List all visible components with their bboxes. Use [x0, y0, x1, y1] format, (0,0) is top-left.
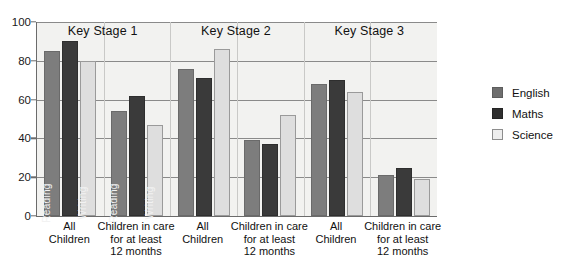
legend: English Maths Science: [492, 82, 572, 145]
bar-inner-label: Writing: [144, 186, 155, 219]
x-axis-category-label: Children in care for at least 12 months: [364, 220, 441, 258]
x-axis-category-label: Children in care for at least 12 months: [231, 220, 308, 258]
x-axis-category-label: Children in care for at least 12 months: [97, 220, 174, 258]
group-separator: [170, 22, 171, 216]
legend-label-science: Science: [512, 129, 553, 141]
stage-title-2: Key Stage 2: [201, 24, 271, 38]
group-separator: [370, 22, 371, 216]
bar-english-group-2[interactable]: [178, 69, 194, 216]
y-axis-tick-label: 100: [0, 16, 31, 28]
stage-title-1: Key Stage 1: [68, 24, 138, 38]
x-axis-category-label: All Children: [49, 220, 90, 245]
bar-inner-label: Reading: [41, 183, 52, 222]
bar-english-group-5[interactable]: [378, 175, 394, 216]
bar-science-group-2[interactable]: [214, 49, 230, 216]
legend-swatch-english-icon: [492, 87, 503, 98]
x-axis-category-label: All Children: [182, 220, 223, 245]
bar-inner-label: Writing: [77, 186, 88, 219]
plot-area: ReadingWritingReadingWriting: [36, 22, 437, 217]
legend-swatch-science-icon: [492, 129, 503, 140]
legend-label-english: English: [512, 87, 550, 99]
bar-maths-group-0[interactable]: [62, 41, 78, 216]
y-axis-tick-label: 0: [0, 210, 31, 222]
bar-maths-group-4[interactable]: [329, 80, 345, 216]
bar-english-group-0[interactable]: Reading: [44, 51, 60, 216]
bar-science-group-5[interactable]: [414, 179, 430, 216]
legend-label-maths: Maths: [512, 108, 543, 120]
group-separator: [237, 22, 238, 216]
group-separator: [104, 22, 105, 216]
bar-maths-group-2[interactable]: [196, 78, 212, 216]
legend-item-english[interactable]: English: [492, 82, 572, 103]
y-axis-tick-label: 20: [0, 171, 31, 183]
bar-inner-label: Reading: [108, 183, 119, 222]
y-axis-tick-label: 40: [0, 132, 31, 144]
bar-science-group-4[interactable]: [347, 92, 363, 216]
bar-science-group-0[interactable]: Writing: [80, 61, 96, 216]
stage-title-3: Key Stage 3: [334, 24, 404, 38]
bar-maths-group-5[interactable]: [396, 168, 412, 217]
bar-maths-group-1[interactable]: [129, 96, 145, 216]
bar-english-group-1[interactable]: Reading: [111, 111, 127, 216]
y-axis-tick-label: 60: [0, 94, 31, 106]
x-axis-category-label: All Children: [316, 220, 357, 245]
legend-item-science[interactable]: Science: [492, 124, 572, 145]
bar-english-group-4[interactable]: [311, 84, 327, 216]
legend-item-maths[interactable]: Maths: [492, 103, 572, 124]
bar-science-group-3[interactable]: [280, 115, 296, 216]
bar-english-group-3[interactable]: [244, 140, 260, 216]
y-axis-tick-label: 80: [0, 55, 31, 67]
bar-science-group-1[interactable]: Writing: [147, 125, 163, 216]
legend-swatch-maths-icon: [492, 108, 503, 119]
bar-chart: 020406080100 ReadingWritingReadingWritin…: [0, 0, 574, 269]
bar-maths-group-3[interactable]: [262, 144, 278, 216]
group-separator: [304, 22, 305, 216]
